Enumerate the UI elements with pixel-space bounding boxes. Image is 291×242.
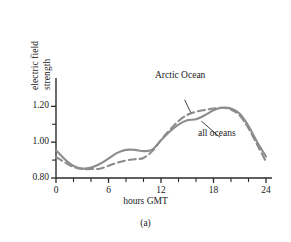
x-axis-label: hours GMT [0,196,291,206]
data-curves [56,108,266,170]
series-annotation-all-oceans: all oceans [198,128,236,138]
figure-panel-a: electric field strength 0.801.001.20 061… [0,0,291,242]
x-tick-label: 18 [204,185,224,195]
x-tick-label: 6 [99,185,119,195]
x-tick-label: 0 [46,185,66,195]
y-tick-label: 1.00 [23,136,49,146]
y-tick-label: 0.80 [23,172,49,182]
x-tick-label: 24 [256,185,276,195]
leader-line [185,100,191,113]
panel-caption: (a) [0,218,291,228]
axis-lines [56,78,272,178]
series-line-all-oceans [56,108,266,169]
series-annotation-arctic-ocean: Arctic Ocean [155,70,205,80]
y-tick-label: 1.20 [23,100,49,110]
x-tick-label: 12 [151,185,171,195]
series-line-arctic-ocean [56,108,266,169]
